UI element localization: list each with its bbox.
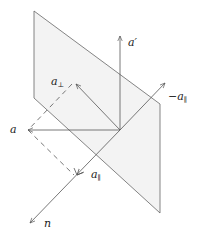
label-a-par: a∥ [91, 168, 101, 182]
label-n: n [44, 217, 51, 230]
vector-n [30, 130, 120, 223]
reflection-diagram: a′ a⊥ −a∥ a a∥ n [0, 0, 198, 238]
plane [34, 11, 160, 213]
label-neg-a-par: −a∥ [168, 90, 187, 104]
dashed-projection-par [28, 130, 74, 175]
label-a-prime: a′ [128, 36, 138, 49]
label-a: a [10, 123, 17, 136]
